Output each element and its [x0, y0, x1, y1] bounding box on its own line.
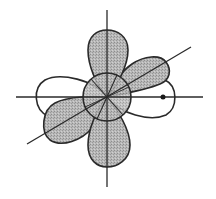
- marker-point: [161, 95, 166, 100]
- orbital-diagram-svg: [0, 0, 216, 199]
- orbital-diagram: [0, 0, 216, 199]
